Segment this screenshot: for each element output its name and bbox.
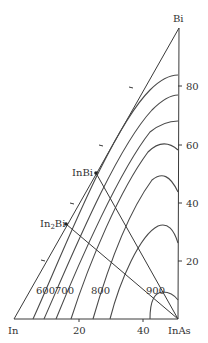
vertex-label-bi: Bi	[173, 13, 184, 24]
isotherm-curves	[33, 75, 178, 319]
right-tick-80: 80	[186, 81, 199, 92]
vertex-label-in: In	[8, 325, 19, 336]
isotherm-label-800: 800	[91, 285, 110, 296]
isotherm-label-600: 600	[36, 285, 55, 296]
phase-diagram: Bi In InAs 80 60 40 20 20 40 InBi In2Bi …	[0, 0, 208, 343]
compound-label-inbi: InBi	[72, 167, 93, 178]
compound-label-in2bi: In2Bi	[40, 218, 65, 231]
bottom-tick-20: 20	[73, 325, 86, 336]
right-tick-60: 60	[186, 140, 199, 151]
inbi-point	[94, 171, 98, 175]
right-tick-40: 40	[186, 198, 199, 209]
vertex-label-inas: InAs	[168, 325, 191, 336]
bottom-tick-40: 40	[137, 325, 150, 336]
isotherm-label-900: 900	[146, 285, 165, 296]
isotherm-label-700: 700	[55, 285, 74, 296]
right-tick-20: 20	[186, 256, 199, 267]
